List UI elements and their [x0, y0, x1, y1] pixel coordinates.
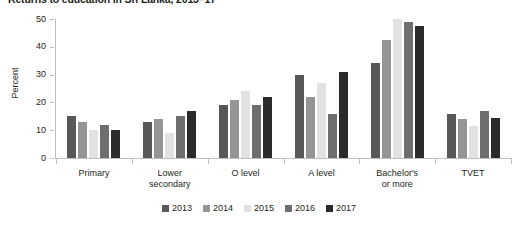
bar: [491, 118, 500, 158]
legend-label: 2015: [254, 204, 274, 213]
bar: [100, 125, 109, 158]
category-separator: [208, 158, 209, 164]
bar: [371, 63, 380, 158]
category-separator: [435, 158, 436, 164]
y-tick-label-20: 20: [24, 98, 46, 107]
bar: [176, 116, 185, 158]
bar: [111, 130, 120, 158]
bar: [480, 111, 489, 158]
y-tick-label-10: 10: [24, 126, 46, 135]
legend-item-2017[interactable]: 2017: [326, 204, 356, 213]
bar: [143, 122, 152, 158]
category-separator: [132, 158, 133, 164]
bar-group: [132, 19, 208, 158]
legend-label: 2013: [172, 204, 192, 213]
bar: [393, 19, 402, 158]
x-axis-category-label: Lowersecondary: [132, 168, 208, 190]
bar: [165, 133, 174, 158]
category-separator: [511, 158, 512, 164]
category-label-line: Bachelor's: [359, 168, 435, 179]
chart-title: Returns to education in Sri Lanka, 2013–…: [8, 0, 508, 5]
bar: [415, 26, 424, 158]
bar: [317, 83, 326, 158]
category-separator: [56, 158, 57, 164]
x-axis-category-label: TVET: [435, 168, 511, 179]
y-axis-tick-labels: 50403020100: [22, 0, 46, 227]
bar-group: [56, 19, 132, 158]
legend-item-2013[interactable]: 2013: [162, 204, 192, 213]
y-tick-label-40: 40: [24, 42, 46, 51]
category-label-line: O level: [208, 168, 284, 179]
bar: [241, 91, 250, 158]
bar-group: [435, 19, 511, 158]
x-axis-category-label: Primary: [56, 168, 132, 179]
category-label-line: A level: [284, 168, 360, 179]
bar: [306, 97, 315, 158]
bar: [78, 122, 87, 158]
legend-label: 2017: [336, 204, 356, 213]
bar: [404, 22, 413, 158]
y-tick-mark-20: [50, 102, 54, 103]
bar: [252, 105, 261, 158]
y-tick-mark-10: [50, 130, 54, 131]
y-tick-mark-30: [50, 75, 54, 76]
bar-group: [208, 19, 284, 158]
category-label-line: or more: [359, 179, 435, 190]
category-label-line: secondary: [132, 179, 208, 190]
y-tick-mark-0: [50, 158, 54, 159]
category-separator: [359, 158, 360, 164]
legend-swatch-icon: [162, 205, 169, 212]
bar: [328, 114, 337, 158]
x-axis-category-label: A level: [284, 168, 360, 179]
bar: [382, 40, 391, 158]
bar: [295, 75, 304, 158]
y-tick-mark-50: [50, 19, 54, 20]
legend-swatch-icon: [285, 205, 292, 212]
legend-label: 2016: [295, 204, 315, 213]
y-axis-title: Percent: [10, 53, 20, 113]
bar: [339, 72, 348, 158]
category-label-line: TVET: [435, 168, 511, 179]
legend-label: 2014: [213, 204, 233, 213]
bar: [89, 130, 98, 158]
bar: [154, 119, 163, 158]
legend-item-2016[interactable]: 2016: [285, 204, 315, 213]
category-label-line: Primary: [56, 168, 132, 179]
legend-item-2015[interactable]: 2015: [244, 204, 274, 213]
category-separator: [284, 158, 285, 164]
category-label-line: Lower: [132, 168, 208, 179]
legend-swatch-icon: [203, 205, 210, 212]
plot-area: [56, 19, 511, 158]
y-tick-label-30: 30: [24, 70, 46, 79]
y-tick-label-0: 0: [24, 154, 46, 163]
bar: [263, 97, 272, 158]
bar: [187, 111, 196, 158]
x-axis-category-label: Bachelor'sor more: [359, 168, 435, 190]
bar: [219, 105, 228, 158]
bar-group: [359, 19, 435, 158]
bar-chart-figure: Returns to education in Sri Lanka, 2013–…: [0, 0, 518, 227]
bar: [469, 126, 478, 158]
bar: [458, 119, 467, 158]
legend-swatch-icon: [244, 205, 251, 212]
bar: [67, 116, 76, 158]
bar-group: [284, 19, 360, 158]
bar: [447, 114, 456, 158]
bar: [230, 100, 239, 158]
x-axis-category-label: O level: [208, 168, 284, 179]
y-tick-label-50: 50: [24, 15, 46, 24]
y-tick-mark-40: [50, 47, 54, 48]
chart-legend: 20132014201520162017: [0, 204, 518, 213]
legend-swatch-icon: [326, 205, 333, 212]
legend-item-2014[interactable]: 2014: [203, 204, 233, 213]
